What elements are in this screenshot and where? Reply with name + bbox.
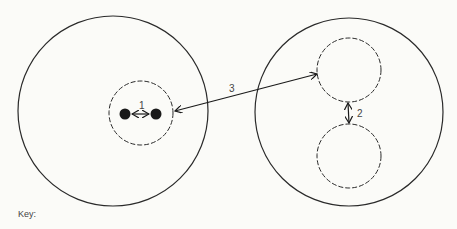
key-label: Key:	[18, 209, 36, 219]
distance-2-arrow	[348, 103, 349, 123]
right-lower-dashed-circle	[317, 124, 381, 188]
distance-3-label: 3	[229, 83, 235, 94]
diagram-canvas: 1 2 3	[0, 0, 457, 229]
distance-1-label: 1	[139, 100, 145, 111]
distance-2-label: 2	[357, 108, 363, 119]
left-dot	[120, 109, 131, 120]
left-inner-dashed-circle	[109, 81, 173, 145]
distance-3-arrow	[175, 74, 317, 111]
left-outer-circle	[18, 16, 208, 206]
right-upper-dashed-circle	[317, 38, 381, 102]
right-dot	[151, 109, 162, 120]
